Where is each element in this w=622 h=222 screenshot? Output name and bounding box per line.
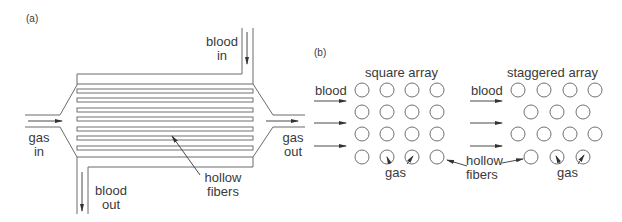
blood-in-label-line1: blood [203,35,241,49]
gas-out-label-line2: out [278,145,308,159]
blood-in-label: blood in [203,35,241,63]
hollow-fibers-shared-line1: hollow [466,154,503,168]
gas-in-label: gas in [24,131,54,159]
staggered-gas-label: gas [557,166,578,180]
panel-b-label: (b) [314,46,326,60]
hollow-fibers-label: hollow fibers [200,171,246,199]
staggered-array-grid [511,83,602,164]
blood-out-label-line2: out [91,198,131,212]
gas-in-label-line2: in [24,145,54,159]
square-array-grid [355,83,444,164]
hollow-fibers-shared-label: hollow fibers [466,154,503,182]
gas-out-label: gas out [278,131,308,159]
staggered-blood-label: blood [471,84,503,98]
hollow-fiber-bundle [77,89,253,150]
blood-out-label-line1: blood [91,184,131,198]
blood-out-label: blood out [91,184,131,212]
blood-in-label-line2: in [203,49,241,63]
gas-out-label-line1: gas [278,131,308,145]
staggered-hollow-fibers-pointer-icon [502,159,523,163]
square-hollow-fibers-pointer-icon [447,160,467,166]
panel-a-label: (a) [26,12,38,26]
hollow-fibers-shared-line2: fibers [466,168,503,182]
square-blood-label: blood [315,84,347,98]
staggered-array-title: staggered array [507,66,598,80]
square-array-title: square array [365,66,438,80]
hollow-fibers-label-line1: hollow [200,171,246,185]
hollow-fibers-label-line2: fibers [200,185,246,199]
gas-in-label-line1: gas [24,131,54,145]
hollow-fibers-pointer-icon [172,136,200,175]
square-gas-label: gas [385,166,406,180]
